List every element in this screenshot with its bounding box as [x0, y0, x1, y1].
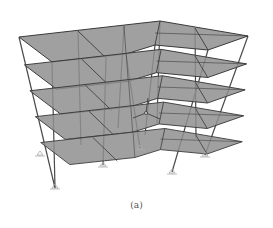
pin-support-icon	[35, 151, 45, 156]
figure-caption: (a)	[0, 200, 273, 210]
structural-frame-diagram	[0, 0, 273, 228]
